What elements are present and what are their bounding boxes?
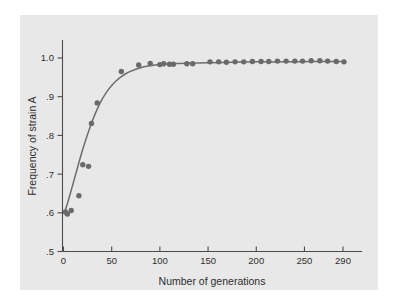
data-point (69, 208, 74, 213)
x-axis-tick-labels: 050100150200250290 (61, 255, 351, 266)
data-point (184, 61, 189, 66)
data-point (232, 59, 237, 64)
data-point (136, 62, 141, 67)
scatter-chart: .5.6.7.8.91.0 050100150200250290 Number … (0, 0, 394, 302)
y-axis-tick-labels: .5.6.7.8.91.0 (41, 52, 54, 257)
data-point (86, 164, 91, 169)
y-axis-title: Frequency of strain A (26, 96, 38, 195)
y-tick-label: .8 (46, 130, 54, 141)
data-point (250, 59, 255, 64)
data-point (216, 59, 221, 64)
data-point (224, 60, 229, 65)
x-tick-label: 200 (248, 255, 264, 266)
data-point (190, 61, 195, 66)
x-tick-label: 150 (200, 255, 216, 266)
x-axis-ticks (64, 247, 344, 252)
data-point (148, 61, 153, 66)
data-point (308, 58, 313, 63)
data-point (341, 59, 346, 64)
data-point (80, 162, 85, 167)
data-point (300, 58, 305, 63)
x-tick-label: 50 (106, 255, 117, 266)
data-point (292, 58, 297, 63)
y-tick-label: .7 (46, 169, 54, 180)
data-point (95, 100, 100, 105)
x-tick-label: 250 (297, 255, 313, 266)
data-point (266, 59, 271, 64)
x-axis-title: Number of generations (159, 275, 266, 287)
data-points-group (63, 58, 347, 217)
data-point (283, 58, 288, 63)
x-tick-label: 290 (335, 255, 351, 266)
y-tick-label: 1.0 (41, 52, 54, 63)
figure-root: .5.6.7.8.91.0 050100150200250290 Number … (0, 0, 394, 302)
y-tick-label: .9 (46, 91, 54, 102)
data-point (334, 59, 339, 64)
data-point (258, 59, 263, 64)
y-axis-ticks (58, 58, 63, 252)
data-point (76, 193, 81, 198)
data-point (89, 121, 94, 126)
y-tick-label: .5 (46, 246, 54, 257)
x-tick-label: 100 (152, 255, 168, 266)
data-point (119, 69, 124, 74)
axes-group (63, 40, 363, 252)
data-point (275, 58, 280, 63)
data-point (171, 61, 176, 66)
data-point (317, 58, 322, 63)
data-point (161, 61, 166, 66)
theoretical-curve (64, 61, 344, 212)
y-tick-label: .6 (46, 207, 54, 218)
data-point (241, 59, 246, 64)
data-point (325, 58, 330, 63)
x-tick-label: 0 (61, 255, 66, 266)
data-point (207, 59, 212, 64)
